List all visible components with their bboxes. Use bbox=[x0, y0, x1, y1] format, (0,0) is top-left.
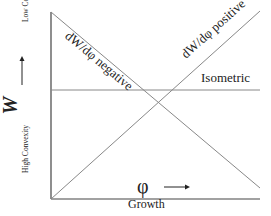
arrow-up-icon bbox=[18, 56, 26, 86]
high-convexity-label: High Convexity bbox=[22, 137, 30, 173]
low-convexity-label: Low Convexity bbox=[22, 0, 30, 22]
isometric-label: Isometric bbox=[201, 70, 250, 86]
arrow-right-icon bbox=[164, 183, 190, 191]
w-axis-symbol: W bbox=[0, 97, 22, 115]
diagram-canvas bbox=[0, 0, 271, 216]
growth-label: Growth bbox=[128, 197, 165, 212]
phi-axis-symbol: φ bbox=[137, 175, 149, 198]
